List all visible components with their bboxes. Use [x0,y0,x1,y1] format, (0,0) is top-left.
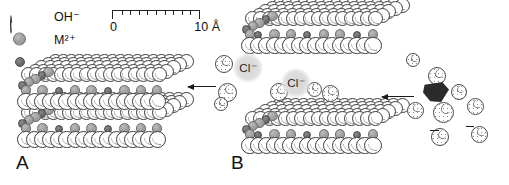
exchange-arrow-left [188,86,216,87]
exchange-arrow-right [382,96,414,97]
arrows [0,0,509,185]
ldh-structure-figure: OH⁻ M²⁺ M³⁺ 0 10 Å A B Cl⁻Cl⁻ [0,0,509,185]
